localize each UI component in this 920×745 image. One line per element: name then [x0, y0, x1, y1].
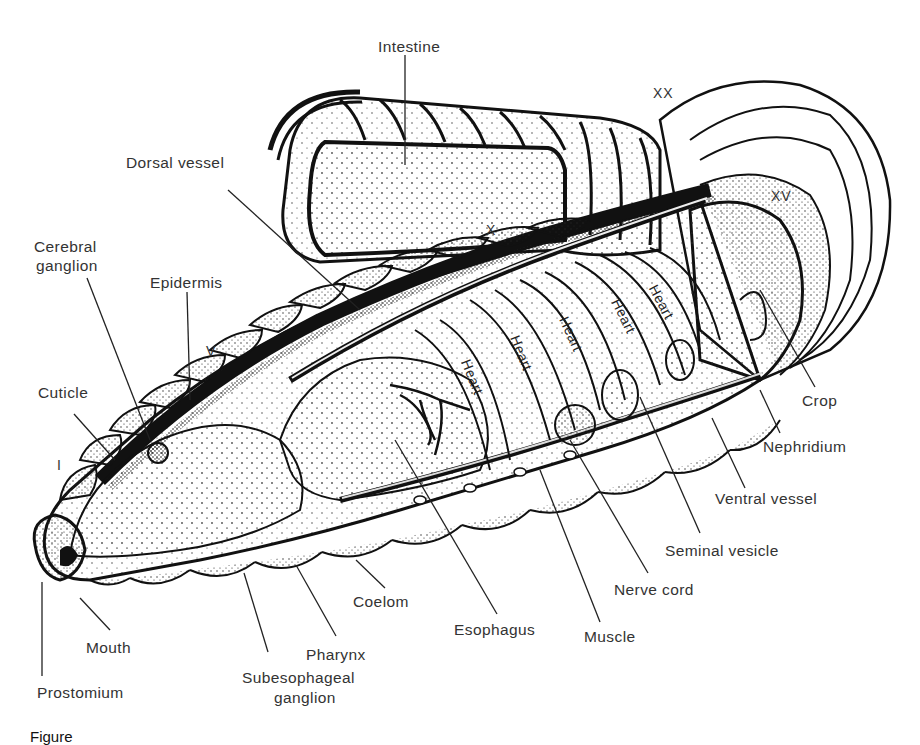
segment-numeral-xx: XX: [653, 85, 674, 101]
label-coelom: Coelom: [353, 593, 409, 611]
label-subesophageal-ganglion-line1: Subesophageal: [242, 669, 355, 687]
label-subesophageal-ganglion-line2: ganglion: [274, 689, 336, 707]
segment-numeral-xv: XV: [771, 188, 792, 204]
label-cerebral-ganglion-line1: Cerebral: [34, 238, 97, 256]
label-epidermis: Epidermis: [150, 274, 223, 292]
label-esophagus: Esophagus: [454, 621, 535, 639]
label-crop: Crop: [802, 392, 837, 410]
label-ventral-vessel: Ventral vessel: [715, 490, 817, 508]
label-muscle: Muscle: [584, 628, 636, 646]
label-cuticle: Cuticle: [38, 384, 88, 402]
label-prostomium: Prostomium: [37, 684, 124, 702]
segment-numeral-i: I: [57, 457, 62, 473]
segment-numeral-v: V: [206, 343, 216, 359]
label-mouth: Mouth: [86, 639, 131, 657]
label-pharynx: Pharynx: [306, 646, 366, 664]
label-intestine: Intestine: [378, 38, 440, 56]
label-cerebral-ganglion-line2: ganglion: [36, 257, 98, 275]
figure-caption: Figure: [30, 728, 73, 745]
segment-numeral-x: X: [486, 222, 496, 238]
label-seminal-vesicle: Seminal vesicle: [665, 542, 779, 560]
label-nephridium: Nephridium: [763, 438, 846, 456]
label-dorsal-vessel: Dorsal vessel: [126, 154, 224, 172]
label-nerve-cord: Nerve cord: [614, 581, 694, 599]
